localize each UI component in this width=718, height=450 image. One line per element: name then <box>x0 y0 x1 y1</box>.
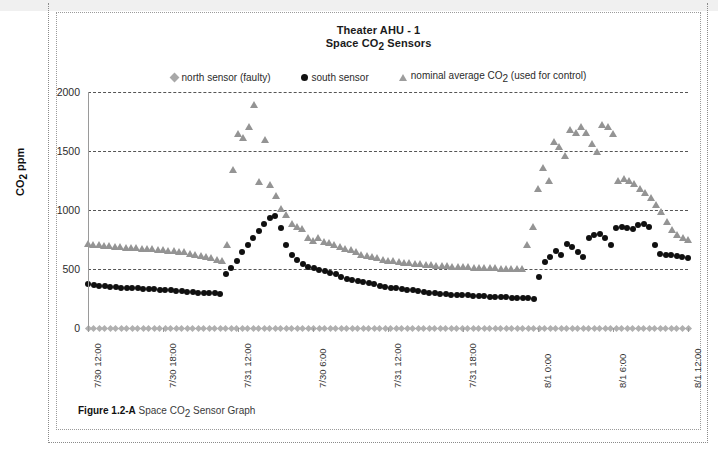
data-point-series-1 <box>283 242 289 248</box>
data-point-series-1 <box>536 274 542 280</box>
chart-title: Theater AHU - 1 Space CO2 Sensors <box>56 24 701 53</box>
y-axis-tick-label: 1500 <box>57 145 80 157</box>
data-point-series-1 <box>531 296 537 302</box>
y-axis-tick-label: 1000 <box>57 204 80 216</box>
data-point-series-2 <box>561 152 569 159</box>
data-point-series-1 <box>272 213 278 219</box>
data-point-series-1 <box>250 235 256 241</box>
data-point-series-2 <box>647 194 655 201</box>
circle-marker-icon <box>301 74 308 81</box>
data-point-series-1 <box>646 224 652 230</box>
x-axis-tick <box>88 328 89 332</box>
x-axis-tick <box>463 328 464 332</box>
data-point-series-2 <box>229 166 237 173</box>
y-axis-title-post: ppm <box>14 148 26 174</box>
data-point-series-2 <box>545 177 553 184</box>
data-point-series-2 <box>529 223 537 230</box>
legend-label-north-sensor: north sensor (faulty) <box>182 72 271 83</box>
data-point-series-1 <box>234 258 240 264</box>
data-point-series-2 <box>272 192 280 199</box>
data-point-series-2 <box>218 257 226 264</box>
x-axis-tick <box>688 328 689 332</box>
data-point-series-1 <box>261 221 267 227</box>
data-point-series-1 <box>608 242 614 248</box>
gridline <box>88 92 688 93</box>
data-point-series-2 <box>588 140 596 147</box>
figure-caption-label: Figure 1.2-A <box>78 405 136 416</box>
chart-title-line2-pre: Space CO <box>326 37 379 49</box>
data-point-series-2 <box>555 143 563 150</box>
figure-caption-text: Space CO2 Sensor Graph <box>139 405 256 416</box>
data-point-series-1 <box>542 259 548 265</box>
data-point-series-1 <box>228 265 234 271</box>
x-axis-tick-label: 7/31 12:00 <box>392 343 403 388</box>
data-point-series-1 <box>569 244 575 250</box>
data-point-series-1 <box>223 271 229 277</box>
data-point-series-2 <box>663 218 671 225</box>
data-point-series-1 <box>652 242 658 248</box>
plot-area <box>88 92 688 328</box>
figure-caption: Figure 1.2-A Space CO2 Sensor Graph <box>78 405 255 419</box>
x-axis-tick-label: 8/1 0:00 <box>542 354 553 388</box>
data-point-series-1 <box>547 254 553 260</box>
data-point-series-2 <box>539 164 547 171</box>
chart-title-line1: Theater AHU - 1 <box>56 24 701 37</box>
data-point-series-2 <box>534 185 542 192</box>
y-axis-title-subscript: 2 <box>18 174 29 180</box>
x-axis-tick-label: 7/30 6:00 <box>317 348 328 388</box>
data-point-series-2 <box>223 241 231 248</box>
x-axis-tick-labels: 7/30 12:007/30 18:007/31 12:007/30 6:007… <box>88 332 688 394</box>
x-axis-tick-label: 7/31 18:00 <box>467 343 478 388</box>
x-axis-tick <box>613 328 614 332</box>
legend-label-south-sensor: south sensor <box>312 72 369 83</box>
data-point-series-2 <box>593 148 601 155</box>
x-axis-tick-label: 7/30 18:00 <box>167 343 178 388</box>
data-point-series-2 <box>298 225 306 232</box>
data-point-series-2 <box>266 181 274 188</box>
data-point-series-2 <box>282 211 290 218</box>
chart-title-line2-post: Sensors <box>384 37 431 49</box>
legend-item-north-sensor[interactable]: north sensor (faulty) <box>171 72 271 83</box>
gridline <box>88 210 688 211</box>
data-point-series-2 <box>684 236 692 243</box>
x-axis-tick-label: 7/30 12:00 <box>92 343 103 388</box>
data-point-series-2 <box>261 136 269 143</box>
data-point-series-1 <box>239 249 245 255</box>
chart-title-line2: Space CO2 Sensors <box>56 37 701 53</box>
data-point-series-1 <box>580 254 586 260</box>
legend-item-south-sensor[interactable]: south sensor <box>301 72 369 83</box>
diamond-marker-icon <box>169 72 179 82</box>
x-axis-tick <box>538 328 539 332</box>
x-axis-tick-label: 8/1 6:00 <box>617 354 628 388</box>
data-point-series-1 <box>217 291 223 297</box>
y-axis-tick-label: 0 <box>74 322 80 334</box>
x-axis-tick-label: 8/1 12:00 <box>692 348 703 388</box>
x-axis-tick <box>163 328 164 332</box>
data-point-series-1 <box>558 252 564 258</box>
data-point-series-1 <box>602 235 608 241</box>
data-point-series-2 <box>652 201 660 208</box>
data-point-series-2 <box>255 178 263 185</box>
gridline <box>88 269 688 270</box>
y-axis-title: CO2 ppm <box>14 148 29 196</box>
data-point-series-1 <box>245 242 251 248</box>
data-point-series-2 <box>657 208 665 215</box>
triangle-marker-icon <box>399 74 407 81</box>
data-point-series-2 <box>239 134 247 141</box>
x-axis-tick <box>313 328 314 332</box>
legend-item-nominal-average[interactable]: nominal average CO2 (used for control) <box>399 70 587 84</box>
y-axis-tick-label: 500 <box>62 263 80 275</box>
x-axis-tick <box>388 328 389 332</box>
chart-legend: north sensor (faulty) south sensor nomin… <box>56 70 701 84</box>
data-point-series-2 <box>518 265 526 272</box>
y-axis-tick-label: 2000 <box>57 86 80 98</box>
data-point-series-1 <box>289 252 295 258</box>
data-point-series-1 <box>256 228 262 234</box>
x-axis-tick-label: 7/31 12:00 <box>242 343 253 388</box>
data-point-series-1 <box>278 225 284 231</box>
data-point-series-2 <box>609 130 617 137</box>
x-axis-tick <box>238 328 239 332</box>
y-axis-title-pre: CO <box>14 180 26 197</box>
data-point-series-2 <box>245 123 253 130</box>
data-point-series-2 <box>582 129 590 136</box>
